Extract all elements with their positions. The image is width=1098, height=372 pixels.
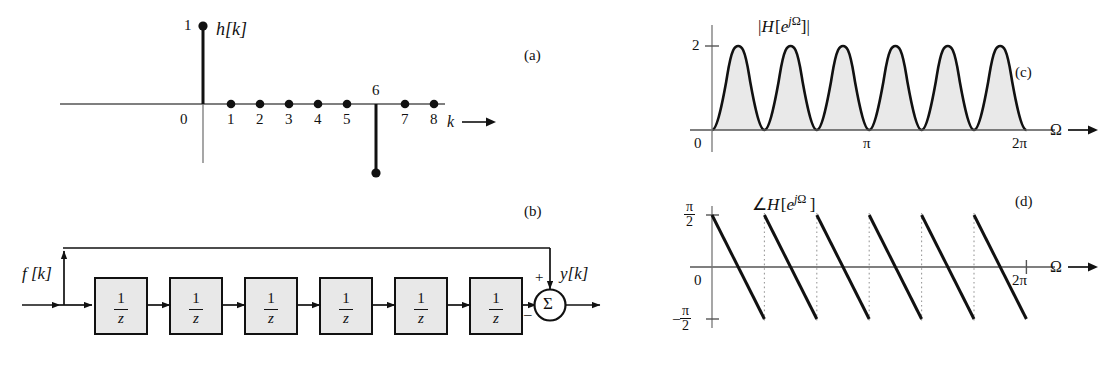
panel-d-frac-bottom-sign: –: [673, 311, 680, 326]
panel-d-frac-top-num: π: [684, 200, 695, 215]
panel-d-frac-bottom: π 2: [680, 304, 691, 334]
panel-c-y-tick-label: 2: [692, 38, 700, 53]
panel-b-summer-minus: –: [524, 307, 532, 322]
panel-b-delay-label-4: 1 z: [320, 291, 372, 327]
panel-b-delay-label-6: 1 z: [470, 291, 522, 327]
panel-d-y-tick-label-top: π 2: [684, 200, 695, 230]
delay-denominator-4: z: [320, 311, 372, 327]
panel-a-x-tick-7: 7: [401, 112, 409, 127]
panel-b-delay-label-3: 1 z: [245, 291, 297, 327]
panel-b-summer-symbol: Σ: [543, 295, 553, 312]
panel-a-point-k3: [285, 100, 294, 109]
panel-b-diagram-svg: [0, 215, 620, 372]
panel-a-x-tick-8: 8: [430, 112, 438, 127]
panel-d-frac-top: π 2: [684, 200, 695, 230]
panel-a-signal-label: h[k]: [216, 20, 247, 38]
panel-d-title-angle: ∠: [752, 195, 767, 214]
panel-a-point-k6: [371, 168, 380, 177]
delay-numerator-2: 1: [170, 291, 222, 308]
panel-a-x-tick-3: 3: [285, 112, 293, 127]
panel-a-x-tick-4: 4: [314, 112, 322, 127]
panel-a-axis-arrow-head: [486, 118, 496, 127]
panel-a-impulse-response: 1 h[k] 0 1 2 3 4 5 7 8 6 k: [0, 0, 560, 200]
panel-d-axis-label: Ω: [1050, 259, 1062, 275]
panel-c-tag: (c): [1015, 65, 1032, 80]
panel-b-block-diagram: 1 z 1 z 1 z 1 z 1 z 1 z f [: [0, 215, 620, 372]
panel-b-tag: (b): [524, 204, 542, 219]
panel-d-title-bracket-close: ]: [810, 195, 816, 214]
panel-d-title-h: H: [767, 195, 779, 214]
panel-a-point-k0: [198, 21, 207, 30]
panel-b-delay-label-1: 1 z: [95, 291, 147, 327]
delay-numerator-3: 1: [245, 291, 297, 308]
panel-c-axis-label: Ω: [1050, 122, 1062, 138]
delay-denominator-3: z: [245, 311, 297, 327]
delay-numerator-5: 1: [395, 291, 447, 308]
panel-a-point-k1: [227, 100, 236, 109]
panel-d-x-tick-2pi: 2π: [1012, 273, 1027, 288]
panel-c-magnitude-response: 2 |H [ejΩ]| 0 π 2π Ω: [660, 0, 1098, 185]
panel-c-x-tick-2pi: 2π: [1012, 136, 1027, 151]
panel-d-plot: [660, 188, 1098, 372]
panel-c-lobe-fill: [712, 46, 1026, 130]
panel-d-title-omega: Ω: [797, 192, 806, 206]
panel-c-x-tick-0: 0: [694, 136, 702, 151]
panel-c-title-bar-close: |: [807, 17, 810, 36]
panel-a-point-k7: [401, 100, 410, 109]
panel-d-frac-top-den: 2: [684, 215, 695, 229]
panel-b-output-label: y[k]: [560, 265, 588, 282]
panel-b-delay-label-2: 1 z: [170, 291, 222, 327]
panel-a-axis-label: k: [447, 114, 454, 130]
panel-a-x-tick-2: 2: [256, 112, 264, 127]
delay-denominator-2: z: [170, 311, 222, 327]
delay-denominator-1: z: [95, 311, 147, 327]
panel-b-input-label: f [k]: [22, 265, 52, 282]
panel-a-point-k2: [256, 100, 265, 109]
panel-c-plot: [660, 0, 1098, 185]
panel-a-x-tick-5: 5: [343, 112, 351, 127]
panel-a-point-k8: [430, 100, 439, 109]
panel-a-point-k5: [343, 100, 352, 109]
panel-c-title-omega: Ω: [792, 14, 801, 28]
panel-a-x-tick-0: 0: [180, 112, 188, 127]
panel-a-point-k4: [314, 100, 323, 109]
panel-a-x-tick-1: 1: [227, 112, 235, 127]
panel-c-axis-arrow-head: [1088, 126, 1098, 135]
delay-numerator-4: 1: [320, 291, 372, 308]
delay-denominator-6: z: [470, 311, 522, 327]
panel-d-tag: (d): [1015, 194, 1033, 209]
panel-d-phase-response: ∠H [ejΩ ] π 2 0 – π 2 2π Ω: [660, 188, 1098, 372]
panel-d-title-e: e: [786, 195, 794, 214]
panel-b-summer-plus: +: [535, 270, 543, 285]
panel-d-frac-bottom-den: 2: [680, 319, 691, 333]
delay-numerator-1: 1: [95, 291, 147, 308]
panel-c-title: |H [ejΩ]|: [758, 15, 810, 35]
panel-d-y-tick-label-bottom: – π 2: [673, 304, 691, 334]
panel-a-tag: (a): [524, 48, 541, 63]
panel-a-plot: [0, 0, 560, 200]
delay-numerator-6: 1: [470, 291, 522, 308]
panel-c-x-tick-pi: π: [863, 136, 871, 151]
panel-b-delay-label-5: 1 z: [395, 291, 447, 327]
panel-c-title-h: H: [761, 17, 773, 36]
panel-a-stem-label-6: 6: [372, 83, 380, 98]
panel-d-y-tick-label-zero: 0: [694, 273, 702, 288]
panel-d-frac-bottom-num: π: [680, 304, 691, 319]
panel-d-axis-arrow-head: [1088, 263, 1098, 272]
delay-denominator-5: z: [395, 311, 447, 327]
panel-c-curve: [712, 46, 1026, 130]
panel-a-y-tick-1: 1: [184, 18, 192, 33]
figure-root: 1 h[k] 0 1 2 3 4 5 7 8 6 k (a): [0, 0, 1098, 372]
panel-d-title: ∠H [ejΩ ]: [752, 193, 816, 213]
